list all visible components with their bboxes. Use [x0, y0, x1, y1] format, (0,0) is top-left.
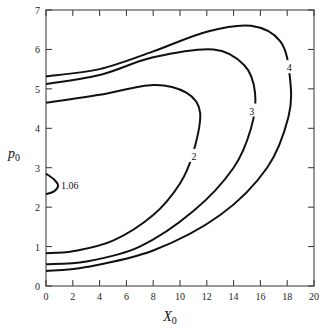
y-axis-ticks: 01234567: [35, 5, 314, 292]
x-tick-label: 18: [282, 291, 292, 302]
x-tick-label: 14: [229, 291, 239, 302]
contour-chart: 02468101214161820 01234567 1.06234 X0 p0: [0, 0, 324, 331]
contour-line-3: [46, 49, 255, 264]
y-tick-label: 0: [35, 281, 40, 292]
x-tick-label: 6: [124, 291, 129, 302]
x-axis-title: X0: [162, 309, 177, 326]
y-tick-label: 3: [35, 163, 40, 174]
x-tick-label: 10: [175, 291, 185, 302]
contour-lines: 1.06234: [46, 25, 294, 271]
contour-label: 2: [192, 151, 197, 162]
x-tick-label: 4: [97, 291, 102, 302]
y-tick-label: 4: [35, 123, 40, 134]
y-tick-label: 7: [35, 5, 40, 16]
y-tick-label: 5: [35, 84, 40, 95]
contour-label: 4: [287, 62, 292, 73]
x-tick-label: 2: [70, 291, 75, 302]
x-axis-ticks: 02468101214161820: [44, 10, 320, 302]
contour-line-1-06: [46, 174, 58, 195]
y-tick-label: 2: [35, 202, 40, 213]
y-axis-title: p0: [7, 146, 20, 163]
x-tick-label: 20: [309, 291, 319, 302]
x-tick-label: 0: [44, 291, 49, 302]
x-tick-label: 8: [151, 291, 156, 302]
x-tick-label: 16: [255, 291, 265, 302]
y-tick-label: 1: [35, 242, 40, 253]
contour-label: 1.06: [61, 180, 78, 191]
contour-line-2: [46, 85, 200, 253]
y-tick-label: 6: [35, 44, 40, 55]
contour-label: 3: [249, 106, 254, 117]
x-tick-label: 12: [202, 291, 212, 302]
contour-line-4: [46, 25, 291, 271]
